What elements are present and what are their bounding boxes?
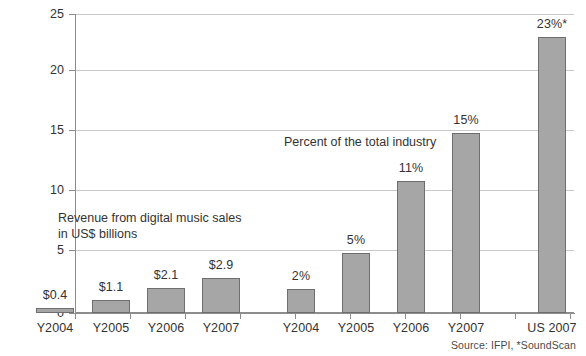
bar-label-percent-us2007: 23%* — [527, 17, 577, 31]
y-tick-15 — [69, 130, 75, 131]
y-axis-label-15: 15 — [20, 124, 64, 137]
bar-percent-y2006 — [397, 181, 425, 313]
gridline-20 — [75, 70, 574, 71]
annotation-percent: Percent of the total industry — [284, 134, 436, 150]
y-axis-label-25: 25 — [20, 8, 64, 21]
x-tick-0 — [75, 314, 76, 319]
bar-label-revenue-y2005: $1.1 — [86, 280, 136, 294]
bar-label-percent-y2005: 5% — [331, 233, 381, 247]
gridline-25 — [75, 14, 574, 15]
y-axis-line — [75, 14, 76, 314]
y-axis-label-20: 20 — [20, 64, 64, 77]
x-tick-5 — [350, 314, 351, 319]
x-tick-7 — [460, 314, 461, 319]
x-axis-label-percent-y2006: Y2006 — [384, 321, 438, 335]
x-axis-label-percent-us2007: US 2007 — [523, 321, 581, 335]
bar-revenue-y2007 — [202, 278, 240, 313]
x-tick-2 — [185, 314, 186, 319]
y-tick-5 — [69, 250, 75, 251]
bar-revenue-y2005 — [92, 300, 130, 313]
x-axis-label-percent-y2005: Y2005 — [329, 321, 383, 335]
x-tick-4 — [295, 314, 296, 319]
bar-label-revenue-y2007: $2.9 — [196, 258, 246, 272]
x-axis-label-revenue-y2005: Y2005 — [84, 321, 138, 335]
annotation-revenue-line2: in US$ billions — [58, 226, 241, 242]
bar-label-percent-y2007: 15% — [441, 113, 491, 127]
bar-label-revenue-y2004: $0.4 — [30, 288, 80, 302]
y-tick-25 — [69, 14, 75, 15]
bar-revenue-y2006 — [147, 288, 185, 313]
x-axis-label-revenue-y2007: Y2007 — [194, 321, 248, 335]
x-axis-label-revenue-y2006: Y2006 — [139, 321, 193, 335]
x-tick-3 — [240, 314, 241, 319]
bar-percent-us2007 — [538, 37, 566, 313]
source-note: Source: IFPI, *SoundScan — [451, 339, 576, 351]
bar-percent-y2004 — [287, 289, 315, 313]
x-tick-1 — [130, 314, 131, 319]
annotation-revenue-line1: Revenue from digital music sales — [58, 210, 241, 226]
x-axis-line — [75, 313, 575, 314]
y-axis-label-5: 5 — [20, 244, 64, 257]
x-axis-label-percent-y2004: Y2004 — [274, 321, 328, 335]
y-tick-10 — [69, 190, 75, 191]
bar-label-percent-y2006: 11% — [386, 161, 436, 175]
x-tick-6 — [405, 314, 406, 319]
x-tick-8 — [515, 314, 516, 319]
gridline-10 — [75, 190, 574, 191]
y-tick-20 — [69, 70, 75, 71]
bar-percent-y2007 — [452, 133, 480, 313]
x-axis-label-percent-y2007: Y2007 — [439, 321, 493, 335]
bar-percent-y2005 — [342, 253, 370, 313]
x-axis-label-revenue-y2004: Y2004 — [28, 321, 82, 335]
x-tick-9 — [570, 314, 571, 319]
bar-chart: 25 20 15 10 5 0 $0.4 Y2004 $1.1 Y2005 $2… — [0, 0, 586, 356]
annotation-revenue: Revenue from digital music sales in US$ … — [58, 210, 241, 242]
bar-label-percent-y2004: 2% — [276, 269, 326, 283]
bar-label-revenue-y2006: $2.1 — [141, 268, 191, 282]
y-axis-label-10: 10 — [20, 184, 64, 197]
gridline-5 — [75, 250, 574, 251]
gridline-15 — [75, 130, 574, 131]
bar-revenue-y2004 — [36, 308, 74, 313]
